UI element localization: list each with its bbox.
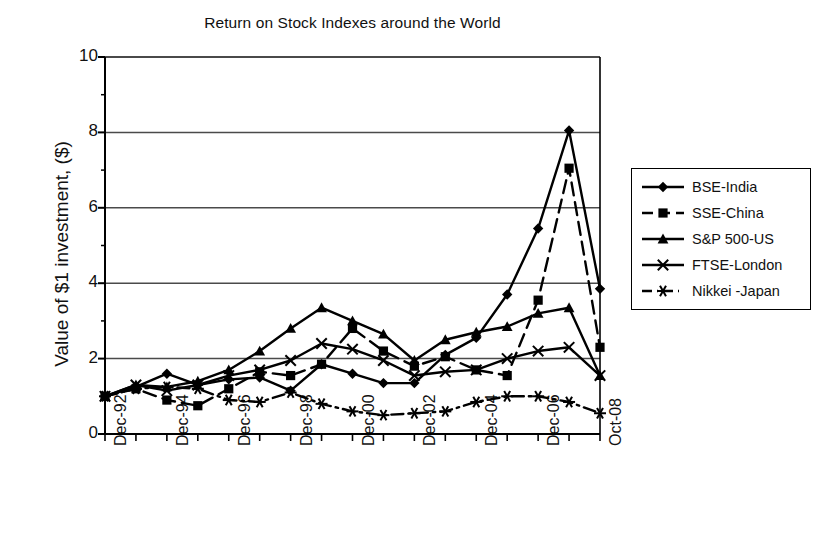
legend-item-nikkei-japan[interactable]: Nikkei -Japan [640, 280, 780, 302]
data-point [564, 164, 573, 173]
data-point [377, 410, 389, 420]
data-point [317, 360, 326, 369]
legend-item-ftse-london[interactable]: FTSE-London [640, 254, 782, 276]
legend-item-sse-china[interactable]: SSE-China [640, 202, 764, 224]
data-point [378, 378, 388, 388]
series-line [105, 131, 600, 397]
data-point [286, 371, 295, 380]
data-point [532, 391, 544, 401]
legend-label: S&P 500-US [692, 231, 774, 247]
data-point [193, 401, 202, 410]
legend-item-bse-india[interactable]: BSE-India [640, 176, 757, 198]
data-point [441, 352, 450, 361]
legend-item-s-p-500-us[interactable]: S&P 500-US [640, 228, 774, 250]
data-point [595, 343, 604, 352]
data-point [503, 371, 512, 380]
data-point [408, 408, 420, 418]
legend-label: Nikkei -Japan [692, 283, 780, 299]
legend-label: BSE-India [692, 179, 757, 195]
data-point [316, 399, 328, 409]
data-point [224, 384, 233, 393]
legend-marker-asterisk-icon [640, 281, 686, 301]
series-bse-india [100, 125, 605, 401]
legend-marker-triangle-icon [640, 229, 686, 249]
data-point [501, 391, 513, 401]
legend-marker-diamond-icon [640, 177, 686, 197]
data-point [563, 397, 575, 407]
data-point [564, 125, 574, 135]
legend-label: SSE-China [692, 205, 764, 221]
data-point [378, 355, 388, 365]
data-point [534, 296, 543, 305]
data-point [254, 397, 266, 407]
data-point [223, 395, 235, 405]
data-point [347, 406, 359, 416]
legend-marker-cross-icon [640, 255, 686, 275]
data-point [162, 368, 172, 378]
data-point [316, 302, 327, 312]
legend-label: FTSE-London [692, 257, 782, 273]
data-point [470, 397, 482, 407]
chart-figure: Return on Stock Indexes around the World… [0, 0, 827, 544]
data-point [162, 395, 171, 404]
data-point [379, 346, 388, 355]
chart-legend: BSE-IndiaSSE-ChinaS&P 500-USFTSE-LondonN… [631, 168, 811, 310]
data-point [533, 223, 543, 233]
data-point [595, 284, 605, 294]
data-point [347, 368, 357, 378]
data-point [439, 406, 451, 416]
series-s-p-500-us [100, 302, 606, 400]
legend-marker-square-icon [640, 203, 686, 223]
